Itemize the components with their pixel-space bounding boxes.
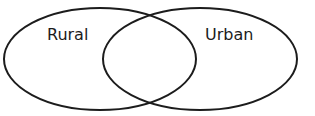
urban-set-ellipse: [103, 8, 297, 110]
venn-diagram: Rural Urban: [0, 0, 315, 116]
urban-set-label: Urban: [205, 25, 253, 44]
rural-set-ellipse: [4, 8, 196, 110]
rural-set-label: Rural: [47, 25, 88, 44]
